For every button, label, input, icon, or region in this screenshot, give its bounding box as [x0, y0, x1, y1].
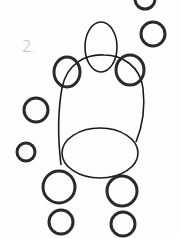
head-oval	[85, 22, 117, 72]
left-leg-upper-circle	[43, 171, 75, 203]
left-lower-circle	[17, 143, 35, 161]
drawing-canvas: 2.	[0, 0, 180, 238]
top-right-circle	[135, 0, 155, 9]
right-circle	[141, 22, 165, 46]
lower-body-oval	[62, 128, 138, 178]
left-leg-lower-circle	[49, 210, 73, 234]
right-shoulder-circle	[116, 55, 144, 85]
left-shoulder-circle	[54, 57, 80, 87]
right-leg-lower-circle	[111, 212, 135, 236]
right-leg-upper-circle	[107, 176, 137, 206]
left-circle	[24, 98, 48, 122]
sketch-illustration	[0, 0, 180, 238]
